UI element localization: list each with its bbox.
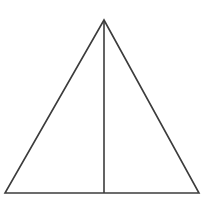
geometry-figure-canvas: Isosceles triangle with median to the ba… <box>0 0 203 205</box>
triangle-diagram-svg: Isosceles triangle with median to the ba… <box>0 0 203 205</box>
figure-background <box>0 0 203 205</box>
